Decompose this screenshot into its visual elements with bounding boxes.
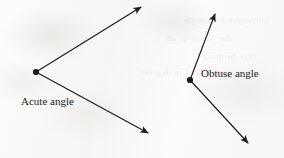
acute-angle-vertex-dot <box>33 69 39 75</box>
acute-upper-ray <box>36 7 141 72</box>
acute-angle-label: Acute angle <box>21 95 74 107</box>
obtuse-angle-vertex-dot <box>187 77 193 83</box>
angle-diagram-canvas <box>0 0 284 158</box>
angle-diagram-figure: corresponding angle the vertex of an ray… <box>0 0 284 158</box>
obtuse-angle-label: Obtuse angle <box>201 67 259 79</box>
obtuse-lower-ray <box>190 80 248 143</box>
acute-angle-shape <box>33 7 148 133</box>
